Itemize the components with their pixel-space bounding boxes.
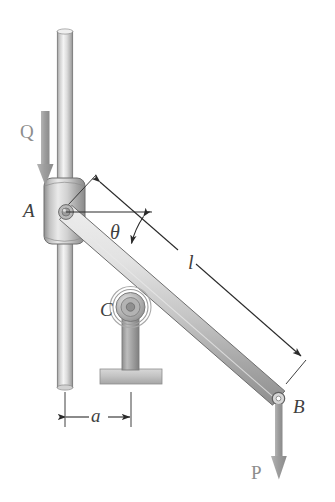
force-arrow-p [271, 404, 287, 480]
mechanics-figure: Q A θ l C a B P [0, 0, 335, 502]
label-angle-theta: θ [110, 222, 120, 242]
label-point-b: B [293, 397, 305, 416]
label-force-q: Q [20, 122, 34, 141]
length-dimension-l [69, 175, 307, 384]
rigid-bar-ab [60, 205, 285, 405]
label-length-l: l [188, 252, 194, 272]
label-distance-a: a [91, 406, 101, 425]
figure-canvas [0, 0, 335, 502]
label-point-a: A [23, 201, 35, 220]
pin-at-b [272, 392, 284, 404]
roller-post [122, 314, 139, 370]
force-arrow-q [37, 111, 54, 186]
roller-base-plate [100, 369, 162, 384]
label-point-c: C [100, 300, 113, 319]
label-force-p: P [251, 463, 262, 482]
